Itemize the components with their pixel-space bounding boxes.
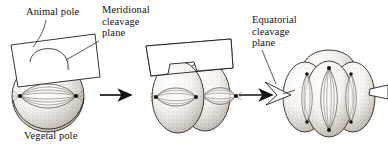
centrosome-dot: [74, 94, 78, 98]
centrosome-dot: [154, 95, 158, 99]
stage-2-two-cell-embryo: [146, 39, 242, 133]
centrosome-dot: [349, 72, 353, 76]
label-vegetal-pole: Vegetal pole: [24, 130, 77, 142]
centrosome-dot: [349, 120, 353, 124]
centrosome-dot: [234, 94, 238, 98]
centrosome-dot: [327, 128, 331, 132]
stage-3-four-cell-embryo: [265, 50, 388, 137]
centrosome-dot: [18, 94, 22, 98]
centrosome-dot: [305, 72, 309, 76]
centrosome-dot: [194, 95, 198, 99]
stage-1-cleavage-plane: [11, 34, 100, 87]
label-equatorial-cleavage-plane: Equatorial cleavage plane: [252, 14, 297, 49]
centrosome-dot: [327, 66, 331, 70]
label-meridional-cleavage-plane: Meridional cleavage plane: [102, 4, 150, 39]
stage-1-one-cell-zygote: [11, 34, 100, 132]
leader-equatorial-plane: [262, 50, 276, 84]
label-animal-pole: Animal pole: [26, 6, 79, 18]
centrosome-dot: [305, 120, 309, 124]
